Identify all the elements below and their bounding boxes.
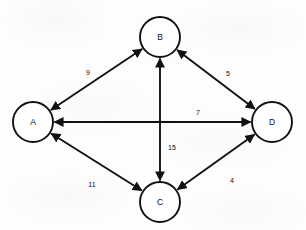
graph-node-b: B (140, 17, 180, 57)
edge-weight-bc: 15 (168, 144, 176, 151)
graph-node-d: D (252, 102, 292, 142)
edge-layer (51, 49, 255, 191)
graph-node-c: C (140, 182, 180, 222)
graph-canvas: ABCD 95715114 (0, 0, 306, 230)
node-label-b: B (157, 32, 163, 42)
graph-edge-ac (51, 133, 142, 190)
node-layer: ABCD (13, 17, 292, 222)
edge-weight-bd: 5 (226, 70, 230, 77)
edge-weight-ab: 9 (86, 69, 90, 76)
node-label-d: D (269, 117, 275, 127)
graph-edge-cd (178, 135, 255, 190)
graph-edge-bd (177, 50, 255, 109)
node-label-a: A (30, 117, 36, 127)
graph-diagram: ABCD 95715114 (0, 0, 306, 230)
edge-weight-cd: 4 (230, 177, 234, 184)
edge-weight-ac: 11 (88, 181, 95, 188)
node-label-c: C (157, 197, 163, 207)
graph-node-a: A (13, 102, 53, 142)
edge-weight-ad: 7 (196, 109, 200, 116)
graph-edge-ab (51, 49, 142, 110)
